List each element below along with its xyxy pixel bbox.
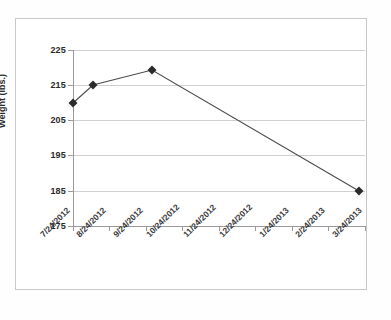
x-axis-label-0: 7/24/2012 bbox=[38, 205, 72, 239]
chart-screenshot: 225 215 205 195 185 175 Weight (lbs.) 7/… bbox=[0, 0, 391, 320]
x-axis-labels: 7/24/2012 8/24/2012 9/24/2012 10/24/2012… bbox=[0, 0, 391, 320]
x-axis-label-4: 11/24/2012 bbox=[181, 202, 218, 239]
x-axis-label-2: 9/24/2012 bbox=[111, 205, 145, 239]
x-axis-label-1: 8/24/2012 bbox=[74, 205, 108, 239]
x-axis-label-6: 1/24/2013 bbox=[257, 205, 291, 239]
x-axis-label-3: 10/24/2012 bbox=[144, 202, 181, 239]
x-axis-label-7: 2/24/2013 bbox=[293, 205, 327, 239]
x-axis-label-8: 3/24/2013 bbox=[330, 205, 364, 239]
x-axis-label-5: 12/24/2012 bbox=[217, 202, 254, 239]
